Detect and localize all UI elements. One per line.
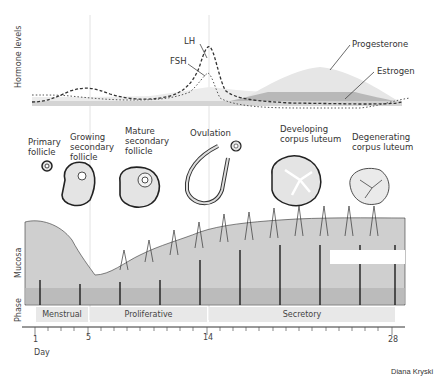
credit-label: Diana Kryski	[391, 367, 433, 377]
progesterone-leader	[330, 45, 350, 70]
mature-follicle-drawing	[120, 167, 160, 207]
fsh-label: FSH	[170, 56, 187, 66]
baseline-band	[32, 101, 402, 106]
stage-label-mature-secondary-follicle: Maturesecondaryfollicle	[125, 126, 169, 156]
tick-label-day-28: 28	[388, 335, 398, 344]
day-axis-label: Day	[34, 348, 50, 357]
tick-label-day-14: 14	[203, 333, 213, 342]
growing-follicle-drawing	[62, 162, 95, 205]
hormone-axis-label: Hormone levels	[14, 26, 23, 88]
hormone-chart	[32, 44, 410, 108]
lh-label: LH	[184, 36, 195, 46]
ovulation-drawing	[187, 146, 228, 203]
estrogen-label: Estrogen	[377, 66, 415, 76]
tick-label-day-1: 1	[33, 335, 38, 344]
tick-label-day-5: 5	[86, 333, 91, 342]
progesterone-label: Progesterone	[352, 39, 408, 49]
phase-axis-label: Phase	[14, 298, 23, 322]
phase-secretory: Secretory	[209, 307, 395, 322]
stage-label-growing-secondary-follicle: Growingsecondaryfollicle	[70, 132, 114, 162]
phase-proliferative: Proliferative	[90, 307, 207, 322]
mucosa-axis-label: Mucosa	[14, 248, 23, 278]
stage-label-degenerating-corpus-luteum: Degeneratingcorpus luteum	[352, 132, 413, 152]
stage-label-primary-follicle: Primaryfollicle	[28, 137, 61, 157]
stage-label-developing-corpus-luteum: Developingcorpus luteum	[280, 124, 341, 144]
stage-label-ovulation: Ovulation	[190, 128, 231, 138]
endometrium-illustration	[25, 206, 405, 305]
phase-menstrual: Menstrual	[36, 307, 88, 322]
mucosa-gap	[330, 250, 405, 264]
developing-corpus-luteum-drawing	[272, 156, 321, 206]
